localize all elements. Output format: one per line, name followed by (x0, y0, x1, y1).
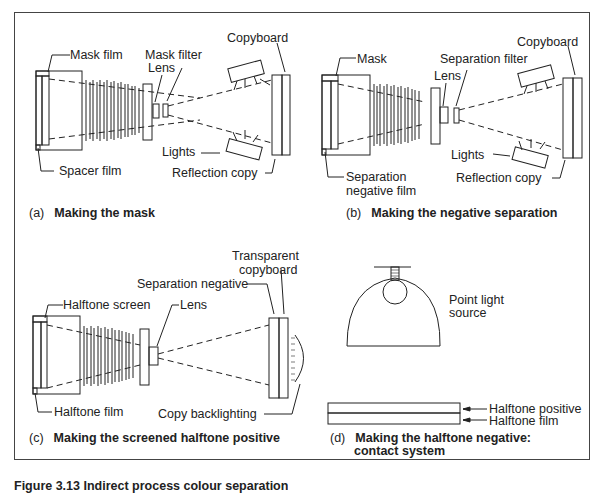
label-transparent-copyboard-1: Transparent (232, 249, 299, 263)
figure-caption: Figure 3.13 Indirect process colour sepa… (14, 479, 288, 493)
label-halftone-screen: Halftone screen (63, 298, 151, 312)
label-lens-a: Lens (148, 61, 175, 75)
label-lens-b: Lens (434, 69, 461, 83)
label-transparent-copyboard-2: copyboard (239, 263, 297, 277)
label-separation-negative: Separation negative (137, 277, 248, 291)
label-spacer-film: Spacer film (59, 164, 122, 178)
label-separation-negative-film-1: Separation (346, 170, 406, 184)
label-lens-c: Lens (180, 298, 207, 312)
label-copyboard-a: Copyboard (227, 31, 288, 45)
caption-b: (b)Making the negative separation (346, 206, 557, 220)
label-lights-b: Lights (451, 148, 484, 162)
caption-d-line2: contact system (354, 444, 445, 458)
label-halftone-film-c: Halftone film (54, 405, 123, 419)
label-point-light-1: Point light (449, 293, 504, 307)
label-reflection-copy-a: Reflection copy (172, 166, 257, 180)
contact-system-d (328, 267, 487, 424)
caption-a: (a)Making the mask (29, 206, 155, 220)
label-separation-filter: Separation filter (440, 52, 528, 66)
caption-c: (c)Making the screened halftone positive (29, 431, 280, 445)
label-mask-filter: Mask filter (145, 48, 202, 62)
label-halftone-film-d: Halftone film (489, 414, 558, 428)
label-mask: Mask (357, 52, 387, 66)
label-point-light-2: source (449, 306, 487, 320)
label-lights-a: Lights (162, 145, 195, 159)
label-separation-negative-film-2: negative film (346, 184, 416, 198)
caption-d-line1: (d)Making the halftone negative: (330, 431, 531, 445)
label-copy-backlighting: Copy backlighting (158, 407, 257, 421)
label-reflection-copy-b: Reflection copy (456, 171, 541, 185)
label-mask-film: Mask film (70, 48, 123, 62)
label-copyboard-b: Copyboard (517, 35, 578, 49)
